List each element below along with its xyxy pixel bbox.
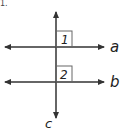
line-a-label: a [110, 38, 119, 56]
line-b-label: b [110, 73, 120, 91]
problem-number: 1. [0, 0, 8, 8]
angle-2-marker: 2 [56, 66, 72, 82]
angle-1-marker: 1 [56, 31, 72, 47]
line-c-label: c [45, 116, 52, 131]
angle-2-label: 2 [60, 68, 68, 82]
parallel-lines-diagram: 1. a b c 1 2 [0, 0, 125, 136]
angle-1-label: 1 [61, 33, 69, 47]
